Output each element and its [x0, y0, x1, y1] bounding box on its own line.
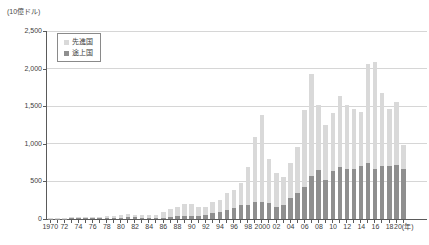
legend-swatch: [64, 40, 69, 45]
x-tick-label: 1970: [42, 222, 58, 231]
bar-1973: [69, 217, 74, 219]
bar-1982: [133, 215, 138, 219]
x-tick-label: 98: [244, 222, 252, 231]
segment-developing: [218, 212, 223, 219]
bar-2015: [366, 64, 371, 219]
segment-developed: [380, 93, 385, 166]
bar-1991: [196, 207, 201, 219]
segment-developing: [182, 216, 187, 219]
segment-developing: [83, 218, 88, 219]
segment-developing: [119, 218, 124, 219]
bar-1976: [90, 217, 95, 219]
segment-developed: [281, 177, 286, 206]
segment-developed: [267, 159, 272, 203]
segment-developing: [352, 169, 357, 219]
bar-1977: [97, 217, 102, 219]
segment-developing: [140, 218, 145, 219]
bar-1975: [83, 217, 88, 219]
x-axis-labels: 1970727476788082848688909294969820000204…: [0, 222, 429, 234]
segment-developing: [366, 163, 371, 219]
segment-developing: [105, 218, 110, 219]
bars-container: [48, 31, 406, 219]
x-tick-label: 16: [372, 222, 380, 231]
bar-2001: [267, 159, 272, 219]
segment-developed: [175, 207, 180, 217]
segment-developing: [267, 203, 272, 219]
bar-2003: [281, 177, 286, 219]
bar-1978: [105, 216, 110, 219]
y-tick-label: 1,500: [0, 102, 42, 110]
y-tick-mark: [43, 181, 46, 182]
segment-developing: [373, 169, 378, 219]
segment-developed: [189, 204, 194, 217]
segment-developing: [161, 218, 166, 219]
bar-1989: [182, 204, 187, 219]
segment-developed: [387, 109, 392, 166]
y-tick-label: 500: [0, 177, 42, 185]
segment-developed: [394, 102, 399, 164]
bar-2005: [295, 147, 300, 219]
segment-developed: [182, 204, 187, 216]
segment-developing: [253, 202, 258, 219]
bar-2010: [331, 113, 336, 219]
bar-2012: [345, 105, 350, 219]
y-tick-mark: [43, 69, 46, 70]
segment-developing: [288, 198, 293, 219]
x-tick-label: 14: [357, 222, 365, 231]
segment-developing: [302, 187, 307, 219]
bar-2009: [323, 125, 328, 219]
x-tick-label: 20(年): [394, 222, 413, 231]
segment-developing: [394, 165, 399, 219]
bar-2007: [309, 74, 314, 219]
bar-1997: [239, 183, 244, 219]
segment-developing: [203, 215, 208, 219]
segment-developed: [331, 113, 336, 171]
bar-2004: [288, 163, 293, 219]
bar-1970: [48, 218, 53, 219]
bar-1983: [140, 215, 145, 219]
segment-developed: [232, 190, 237, 208]
segment-developed: [225, 193, 230, 210]
segment-developed: [239, 183, 244, 205]
segment-developing: [260, 202, 265, 219]
bar-2002: [274, 173, 279, 219]
x-tick-label: 82: [131, 222, 139, 231]
segment-developing: [359, 166, 364, 219]
x-tick-label: 80: [117, 222, 125, 231]
y-axis-unit-label: (10億ドル): [7, 6, 40, 16]
segment-developing: [387, 166, 392, 219]
bar-2006: [302, 110, 307, 219]
bar-1988: [175, 207, 180, 219]
segment-developed: [274, 173, 279, 206]
segment-developing: [281, 205, 286, 219]
segment-developing: [331, 171, 336, 219]
bar-1980: [119, 215, 124, 219]
bar-2019: [394, 102, 399, 219]
y-tick-mark: [43, 144, 46, 145]
bar-1995: [225, 193, 230, 219]
segment-developing: [112, 218, 117, 219]
legend-label: 途上国: [72, 49, 93, 57]
segment-developing: [274, 207, 279, 219]
x-tick-label: 86: [159, 222, 167, 231]
bar-2017: [380, 93, 385, 219]
segment-developing: [196, 216, 201, 219]
x-tick-label: 84: [145, 222, 153, 231]
x-tick-label: 10: [329, 222, 337, 231]
bar-2016: [373, 62, 378, 219]
bar-1974: [76, 217, 81, 219]
segment-developing: [69, 218, 74, 219]
segment-developed: [309, 74, 314, 176]
segment-developed: [168, 209, 173, 217]
segment-developed: [401, 145, 406, 169]
segment-developed: [260, 115, 265, 201]
segment-developing: [232, 208, 237, 219]
y-tick-label: 2,500: [0, 27, 42, 35]
legend: 先進国途上国: [57, 33, 101, 62]
segment-developing: [210, 213, 215, 219]
segment-developed: [352, 109, 357, 168]
segment-developing: [295, 193, 300, 219]
segment-developed: [316, 105, 321, 170]
segment-developed: [323, 125, 328, 180]
segment-developing: [309, 176, 314, 219]
